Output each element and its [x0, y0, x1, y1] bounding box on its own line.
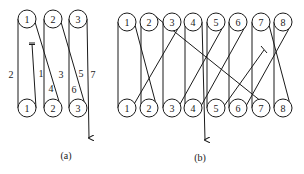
- roller-b-bottom-2-label: 2: [147, 103, 152, 114]
- diagram-a-bottom-rollers: 1 2 3: [18, 99, 87, 117]
- caption-b: (b): [194, 152, 206, 164]
- roller-b-bottom-5-label: 5: [214, 103, 219, 114]
- strand-b-exit-arrow: [202, 22, 205, 140]
- roller-b-top-8-label: 8: [281, 17, 286, 28]
- diagram-canvas: 1 2 3 1 2 3 1 2 3 4 5 6 7 (a): [0, 0, 304, 174]
- diagram-b-bottom-rollers: 1 2 3 4 5 6 7 8: [118, 99, 292, 117]
- roller-b-top-6-label: 6: [236, 17, 241, 28]
- roller-b-top-3-label: 3: [170, 17, 175, 28]
- roller-a-bottom-3-label: 3: [76, 103, 81, 114]
- roller-b-top-5-label: 5: [214, 17, 219, 28]
- path-label-4: 4: [49, 83, 54, 94]
- strand-7-exit-arrow: [87, 19, 89, 138]
- start-marker-b-icon: [261, 46, 267, 53]
- strand-b-bottom5-start: [224, 50, 264, 106]
- roller-b-bottom-1-label: 1: [125, 103, 130, 114]
- roller-b-top-2-label: 2: [147, 17, 152, 28]
- roller-b-top-4-label: 4: [191, 17, 196, 28]
- roller-a-bottom-1-label: 1: [25, 103, 30, 114]
- strand-b-bottom4-top6: [201, 25, 246, 106]
- strand-b-top7-bottom8: [269, 25, 291, 108]
- diagram-a-strands: [18, 19, 89, 138]
- roller-b-bottom-4-label: 4: [191, 103, 196, 114]
- path-label-7: 7: [91, 69, 96, 80]
- strand-b-bottom1-top3: [133, 25, 180, 106]
- roller-b-top-1-label: 1: [125, 17, 130, 28]
- roller-a-top-2-label: 2: [51, 14, 56, 25]
- roller-a-top-1-label: 1: [25, 14, 30, 25]
- roller-b-bottom-7-label: 7: [259, 103, 264, 114]
- roller-b-bottom-8-label: 8: [281, 103, 286, 114]
- diagram-a: 1 2 3 1 2 3 1 2 3 4 5 6 7 (a): [9, 10, 96, 162]
- roller-b-bottom-3-label: 3: [170, 103, 175, 114]
- diagram-b: 1 2 3 4 5 6 7 8 1 2 3 4 5: [118, 13, 292, 164]
- diagram-b-strands: [118, 16, 291, 140]
- diagram-b-top-rollers: 1 2 3 4 5 6 7 8: [118, 13, 292, 31]
- strand-1: [32, 44, 36, 108]
- strand-5: [61, 22, 86, 108]
- path-label-2: 2: [9, 69, 14, 80]
- path-label-6: 6: [72, 84, 77, 95]
- strand-3: [35, 22, 61, 108]
- diagram-a-top-rollers: 1 2 3: [18, 10, 87, 28]
- strand-b-top1-bottom2: [135, 25, 157, 108]
- roller-b-top-7-label: 7: [259, 17, 264, 28]
- diagram-a-path-labels: 1 2 3 4 5 6 7: [9, 68, 96, 95]
- path-label-5: 5: [79, 68, 84, 79]
- roller-a-bottom-2-label: 2: [51, 103, 56, 114]
- caption-a: (a): [60, 150, 71, 162]
- path-label-3: 3: [59, 69, 64, 80]
- roller-a-top-3-label: 3: [76, 14, 81, 25]
- roller-b-bottom-6-label: 6: [236, 103, 241, 114]
- path-label-1: 1: [39, 68, 44, 79]
